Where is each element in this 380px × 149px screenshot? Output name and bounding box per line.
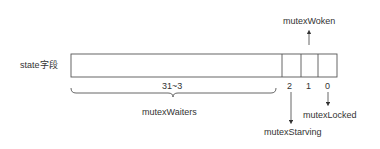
- mutex-state-diagram: state字段 31~3 mutexWaiters 2 1 0 mutexWok…: [0, 0, 380, 149]
- state-field-label: state字段: [20, 59, 58, 70]
- state-field-box: [71, 54, 337, 77]
- bit-index-0: 0: [325, 81, 330, 91]
- waiters-label: mutexWaiters: [142, 107, 197, 117]
- bit-range-label: 31~3: [162, 81, 182, 91]
- woken-label: mutexWoken: [283, 16, 335, 26]
- locked-label: mutexLocked: [303, 110, 357, 120]
- starving-label: mutexStarving: [264, 127, 322, 137]
- bit-index-1: 1: [306, 81, 311, 91]
- bit-index-2: 2: [287, 81, 292, 91]
